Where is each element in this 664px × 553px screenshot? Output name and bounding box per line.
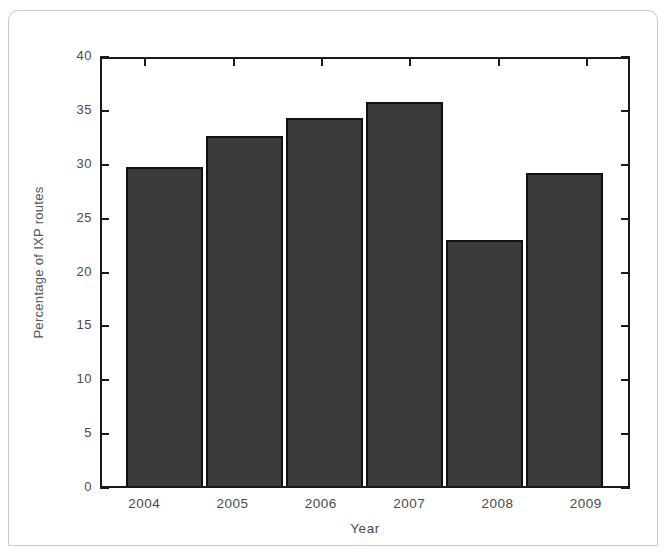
bar-slot: [444, 59, 524, 486]
bar-chart-figure: Percentage of IXP routes 05101520253035: [0, 0, 664, 553]
y-tick-mark: [100, 218, 109, 220]
x-tick-mark-top: [321, 57, 323, 66]
y-tick-mark: [100, 110, 109, 112]
bar-2004[interactable]: [126, 167, 203, 486]
y-tick-label: 40: [46, 48, 92, 63]
bar-2007[interactable]: [366, 102, 443, 486]
y-tick-mark: [100, 325, 109, 327]
y-tick-mark: [100, 56, 109, 58]
bar-2006[interactable]: [286, 118, 363, 486]
x-tick-label: 2008: [453, 496, 543, 511]
bar-2008[interactable]: [446, 240, 523, 486]
y-tick-mark: [100, 487, 109, 489]
x-tick-label: 2004: [99, 496, 189, 511]
x-tick-mark-top: [498, 57, 500, 66]
x-tick-label: 2007: [364, 496, 454, 511]
y-tick-mark: [100, 164, 109, 166]
y-tick-mark: [100, 272, 109, 274]
x-tick-mark-top: [409, 57, 411, 66]
bar-slot: [364, 59, 444, 486]
y-tick-mark: [100, 379, 109, 381]
y-tick-label: 15: [46, 317, 92, 332]
bar-slot: [524, 59, 604, 486]
y-tick-mark-right: [621, 487, 630, 489]
y-tick-mark-right: [621, 164, 630, 166]
y-tick-label: 25: [46, 210, 92, 225]
x-tick-label: 2009: [541, 496, 631, 511]
bar-2009[interactable]: [526, 173, 603, 486]
y-tick-label: 20: [46, 264, 92, 279]
plot-area: [100, 57, 630, 488]
bars-container: [102, 59, 628, 486]
x-tick-mark-top: [586, 57, 588, 66]
y-tick-mark-right: [621, 218, 630, 220]
x-tick-label: 2005: [188, 496, 278, 511]
y-axis-label: Percentage of IXP routes: [31, 173, 46, 353]
bar-slot: [124, 59, 204, 486]
bar-slot: [284, 59, 364, 486]
y-tick-mark-right: [621, 272, 630, 274]
y-tick-mark-right: [621, 325, 630, 327]
y-tick-mark-right: [621, 56, 630, 58]
x-tick-mark-top: [233, 57, 235, 66]
x-tick-label: 2006: [276, 496, 366, 511]
y-tick-mark-right: [621, 379, 630, 381]
y-tick-mark: [100, 433, 109, 435]
y-tick-label: 35: [46, 102, 92, 117]
y-tick-label: 10: [46, 371, 92, 386]
x-axis-label: Year: [0, 521, 664, 536]
y-tick-mark-right: [621, 110, 630, 112]
x-axis-label-text: Year: [350, 521, 379, 536]
bar-slot: [204, 59, 284, 486]
bar-2005[interactable]: [206, 136, 283, 486]
y-tick-mark-right: [621, 433, 630, 435]
y-tick-label: 5: [46, 425, 92, 440]
y-tick-label: 0: [46, 479, 92, 494]
y-tick-label: 30: [46, 156, 92, 171]
x-tick-mark-top: [144, 57, 146, 66]
